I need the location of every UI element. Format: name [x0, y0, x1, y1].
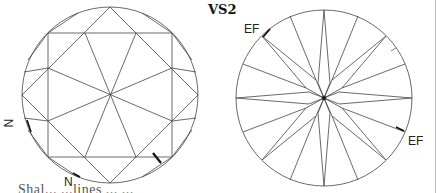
extra-facet-mark	[263, 29, 270, 37]
caption-text: Shal... ...lines ... ...	[18, 182, 134, 193]
feather-mark	[391, 48, 396, 51]
crown-view	[22, 7, 198, 183]
crown-inclusions	[27, 120, 161, 177]
page-edge-divider	[435, 0, 436, 193]
feather-mark	[153, 153, 161, 163]
clarity-plot	[0, 0, 439, 193]
extra-facet-label-top: EF	[244, 22, 259, 36]
extra-facet-label-right: EF	[408, 134, 423, 148]
natural-label-left: N	[1, 119, 15, 128]
culet-dot	[322, 96, 326, 100]
pavilion-main-n	[318, 10, 330, 98]
crown-square-b	[48, 33, 172, 157]
